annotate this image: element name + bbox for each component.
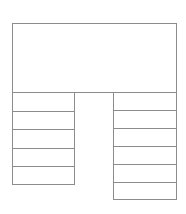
left-column-row[interactable] (12, 148, 75, 167)
right-column-row-label (114, 183, 176, 187)
right-column-row[interactable] (113, 164, 177, 182)
diagram-canvas (0, 0, 186, 214)
header-cell-label (13, 24, 176, 28)
right-column-row[interactable] (113, 128, 177, 146)
right-column-row[interactable] (113, 182, 177, 200)
left-column-row-label (13, 112, 74, 116)
right-column-row-label (114, 165, 176, 169)
left-column-row-label (13, 93, 74, 97)
right-column-row-label (114, 93, 176, 97)
right-column-row[interactable] (113, 146, 177, 164)
left-column-row-label (13, 167, 74, 171)
right-column-row-label (114, 129, 176, 133)
left-column-row-label (13, 149, 74, 153)
left-column-row[interactable] (12, 129, 75, 148)
right-column-row[interactable] (113, 92, 177, 110)
right-column-row-label (114, 147, 176, 151)
left-column-row[interactable] (12, 92, 75, 111)
right-column-row[interactable] (113, 110, 177, 128)
header-cell[interactable] (12, 23, 177, 93)
right-column-row-label (114, 111, 176, 115)
left-column-row[interactable] (12, 166, 75, 185)
left-column-row-label (13, 130, 74, 134)
left-column-row[interactable] (12, 111, 75, 130)
